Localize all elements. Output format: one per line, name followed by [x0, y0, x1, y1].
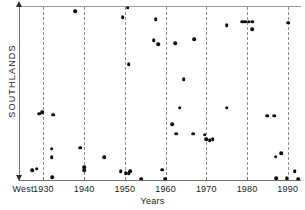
data-point [154, 17, 158, 21]
data-point [156, 42, 160, 46]
data-point [178, 106, 182, 110]
data-point [266, 114, 270, 118]
data-point [182, 77, 186, 81]
x-tick-1930 [43, 177, 44, 181]
plot-area [19, 6, 300, 181]
y-axis-arrow-up-icon [16, 1, 22, 7]
data-point [174, 132, 178, 136]
data-point [161, 168, 165, 172]
x-tick-1940 [84, 177, 85, 181]
data-point [211, 137, 215, 141]
data-point [78, 146, 82, 150]
data-point [279, 151, 283, 155]
scatter-chart-figure: West1930194019501960197019801990 SOUTHLA… [0, 0, 305, 210]
data-point [275, 176, 279, 180]
x-tick-1980 [247, 177, 248, 181]
data-point [251, 20, 255, 24]
data-point [126, 6, 130, 10]
gridline-1980 [247, 7, 248, 180]
x-tick-1970 [206, 177, 207, 181]
data-point [102, 156, 106, 160]
data-point [128, 170, 132, 174]
data-point [225, 106, 229, 110]
x-tick-label-west: West [12, 184, 33, 194]
x-tick-label-1970: 1970 [196, 184, 217, 194]
gridline-1930 [43, 7, 44, 180]
data-point [272, 114, 276, 118]
data-point [35, 167, 39, 171]
data-point [297, 177, 301, 181]
plot-top-rule [19, 6, 301, 7]
data-point [51, 113, 55, 117]
data-point [127, 62, 131, 66]
x-tick-label-1930: 1930 [33, 184, 54, 194]
data-point [50, 176, 54, 180]
data-point [73, 9, 77, 13]
data-point [121, 16, 125, 20]
data-point [50, 147, 54, 151]
data-point [30, 169, 34, 173]
data-point [40, 110, 44, 114]
data-point [139, 177, 143, 181]
gridline-1990 [288, 7, 289, 180]
gridline-1940 [84, 7, 85, 180]
y-axis-title: SOUTHLANDS [7, 21, 17, 141]
gridline-1950 [125, 7, 126, 180]
data-point [82, 169, 86, 173]
data-point [163, 177, 167, 181]
x-tick-label-1990: 1990 [277, 184, 298, 194]
y-axis-arrow-down-icon [16, 175, 22, 181]
gridline-1960 [166, 7, 167, 180]
data-point [286, 21, 290, 25]
data-point [274, 155, 278, 159]
data-point [293, 170, 297, 174]
x-tick-label-1950: 1950 [114, 184, 135, 194]
data-point [170, 123, 174, 127]
data-point [192, 37, 196, 41]
data-point [152, 38, 156, 42]
data-point [50, 156, 54, 160]
data-point [173, 42, 177, 46]
x-tick-label-1960: 1960 [155, 184, 176, 194]
x-axis-title: Years [0, 196, 305, 206]
data-point [251, 28, 255, 32]
x-tick-1950 [125, 177, 126, 181]
data-point [119, 170, 123, 174]
x-tick-label-1980: 1980 [237, 184, 258, 194]
x-tick-label-1940: 1940 [74, 184, 95, 194]
data-point [192, 132, 196, 136]
y-axis-line [19, 6, 20, 181]
gridline-1970 [206, 7, 207, 180]
data-point [285, 176, 289, 180]
data-point [203, 133, 207, 137]
x-axis-line [19, 180, 301, 181]
data-point [225, 23, 229, 27]
